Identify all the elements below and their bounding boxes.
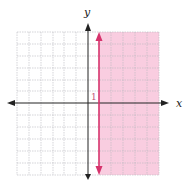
x-axis-right-arrow-icon [161,100,169,106]
y-axis-down-arrow-icon [85,174,91,180]
y-axis-label: y [83,6,91,19]
tick-label-one: 1 [91,92,97,102]
x-axis-left-arrow-icon [7,100,15,106]
y-axis-up-arrow-icon [85,23,91,31]
x-axis-label: x [176,97,183,110]
coordinate-plane: y x 1 [0,0,183,180]
